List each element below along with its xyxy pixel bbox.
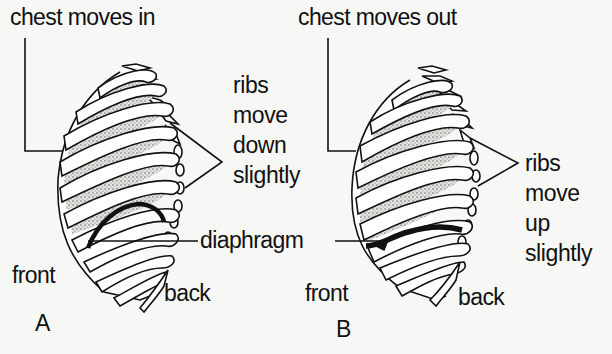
back-label-b: back [458,282,504,312]
ribs-label-line: up [525,208,592,238]
ribs-label-line: slightly [233,160,300,190]
front-label-b: front [305,278,348,308]
chest-leader-a [25,38,62,151]
back-label-a: back [164,278,210,308]
chest-leader-b [328,38,356,151]
ribs-label-line: down [233,130,300,160]
title-chest-moves-in: chest moves in [10,2,155,32]
ribs-label-line: slightly [525,238,592,268]
panel-label-b: B [336,314,351,344]
ribs-label-line: move [233,100,300,130]
ribcage-b [352,66,480,306]
ribs-move-up-label: ribs move up slightly [525,148,592,268]
panel-label-a: A [35,308,50,338]
ribs-label-line: move [525,178,592,208]
front-label-a: front [12,260,55,290]
ribs-move-down-label: ribs move down slightly [233,70,300,190]
ribcage-a [58,64,184,312]
title-chest-moves-out: chest moves out [298,2,456,32]
ribs-label-line: ribs [525,148,592,178]
diaphragm-label: diaphragm [200,225,303,255]
ribs-label-line: ribs [233,70,300,100]
